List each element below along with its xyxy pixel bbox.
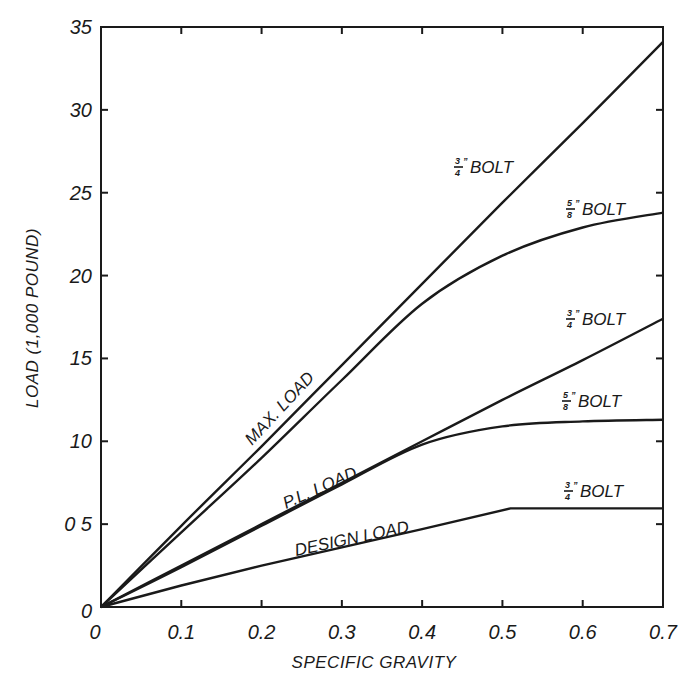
y-tick-label: 10 [70, 430, 92, 452]
y-tick-label: 0 5 [64, 513, 93, 535]
x-tick-label: 0.3 [328, 621, 356, 643]
svg-text:4: 4 [454, 168, 460, 178]
x-tick-label: 0.7 [649, 621, 678, 643]
y-axis-title: LOAD (1,000 POUND) [23, 228, 42, 408]
y-tick-label: 25 [69, 182, 93, 204]
svg-text:BOLT: BOLT [582, 200, 627, 219]
y-tick-label: 0 [81, 600, 92, 622]
bolt-label-max-34: 3 4 ” BOLT [454, 156, 515, 178]
x-tick-label: 0.6 [569, 621, 598, 643]
svg-text:3: 3 [567, 308, 572, 318]
svg-text:BOLT: BOLT [578, 392, 623, 411]
bolt-label-design-34: 3 4 ” BOLT [564, 480, 625, 502]
svg-text:8: 8 [567, 210, 572, 220]
svg-text:BOLT: BOLT [470, 158, 515, 177]
y-tick-label: 35 [70, 16, 93, 38]
x-axis-title: SPECIFIC GRAVITY [292, 653, 458, 672]
y-tick-label: 15 [70, 347, 93, 369]
chart: 00.10.20.30.40.50.60.700 5101520253035 S… [0, 0, 683, 687]
svg-text:”: ” [575, 308, 580, 318]
y-tick-label: 20 [69, 265, 92, 287]
y-tick-label: 30 [70, 99, 92, 121]
svg-text:3: 3 [455, 156, 460, 166]
pl-load-label: P.L. LOAD [280, 463, 360, 513]
svg-text:”: ” [575, 198, 580, 208]
svg-text:”: ” [463, 156, 468, 166]
design-load-label: DESIGN LOAD [293, 517, 411, 560]
svg-text:”: ” [571, 390, 576, 400]
max-load-label: MAX. LOAD [241, 368, 318, 449]
bolt-label-pl-58: 5 8 ” BOLT [562, 390, 623, 412]
svg-text:4: 4 [566, 320, 572, 330]
bolt-label-pl-34: 3 4 ” BOLT [566, 308, 627, 330]
svg-text:5: 5 [567, 198, 573, 208]
x-tick-label: 0.4 [408, 621, 436, 643]
x-tick-label: 0.2 [248, 621, 276, 643]
x-tick-label: 0.1 [167, 621, 195, 643]
svg-text:8: 8 [563, 402, 568, 412]
svg-text:BOLT: BOLT [580, 482, 625, 501]
x-tick-label: 0 [89, 621, 100, 643]
svg-text:3: 3 [565, 480, 570, 490]
svg-text:5: 5 [563, 390, 569, 400]
curve-line [101, 420, 663, 607]
x-tick-label: 0.5 [489, 621, 518, 643]
axis-tick-labels: 00.10.20.30.40.50.60.700 5101520253035 [64, 16, 678, 643]
svg-text:”: ” [573, 480, 578, 490]
svg-text:BOLT: BOLT [582, 310, 627, 329]
bolt-label-max-58: 5 8 ” BOLT [566, 198, 627, 220]
svg-text:4: 4 [564, 492, 570, 502]
